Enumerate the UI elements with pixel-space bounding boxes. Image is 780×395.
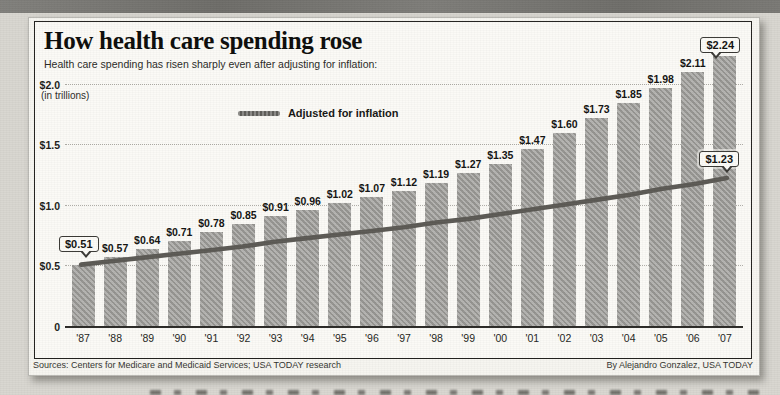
line-swatch-icon (238, 111, 280, 116)
inflation-line (65, 51, 743, 326)
footer-row: Sources: Centers for Medicare and Medica… (33, 360, 753, 370)
x-axis-label: '07 (718, 332, 732, 344)
x-axis-label: '92 (237, 332, 251, 344)
legend: Adjusted for inflation (238, 107, 399, 119)
cropped-caption-remnant (150, 390, 768, 395)
x-axis-label: '01 (526, 332, 540, 344)
y-axis-label: $1.5 (40, 140, 60, 152)
x-axis-label: '94 (301, 332, 315, 344)
x-axis-label: '05 (654, 332, 668, 344)
x-axis-label: '04 (622, 332, 636, 344)
x-axis-label: '96 (365, 332, 379, 344)
y-axis-label: 0 (54, 321, 60, 333)
x-axis-label: '02 (558, 332, 572, 344)
callout-line-end-value: $1.23 (699, 151, 739, 167)
x-axis-label: '93 (269, 332, 283, 344)
x-axis-label: '97 (397, 332, 411, 344)
y-axis-label: $2.0 (40, 80, 60, 92)
x-axis-label: '88 (108, 332, 122, 344)
chart-title: How health care spending rose (44, 28, 741, 54)
x-axis-label: '03 (590, 332, 604, 344)
x-axis-label: '90 (172, 332, 186, 344)
credit-text: By Alejandro Gonzalez, USA TODAY (606, 360, 753, 370)
legend-label: Adjusted for inflation (288, 107, 399, 119)
chart-frame: How health care spending rose Health car… (34, 21, 752, 359)
x-axis-label: '91 (205, 332, 219, 344)
plot-area: (in trillions) '87$0.57'88$0.64'89$0.71'… (65, 51, 743, 328)
x-axis-label: '06 (686, 332, 700, 344)
x-axis-label: '87 (76, 332, 90, 344)
y-axis-label: $1.0 (40, 200, 60, 212)
x-axis-label: '99 (461, 332, 475, 344)
callout-last-bar-value: $2.24 (700, 37, 740, 53)
chart-clipping-card: How health care spending rose Health car… (28, 17, 760, 376)
sources-text: Sources: Centers for Medicare and Medica… (33, 360, 341, 370)
x-axis-label: '95 (333, 332, 347, 344)
callout-first-value: $0.51 (59, 236, 99, 252)
scan-top-strip (0, 0, 780, 13)
x-axis-label: '89 (140, 332, 154, 344)
x-axis-label: '00 (493, 332, 507, 344)
y-axis-label: $0.5 (40, 260, 60, 272)
x-axis-label: '98 (429, 332, 443, 344)
